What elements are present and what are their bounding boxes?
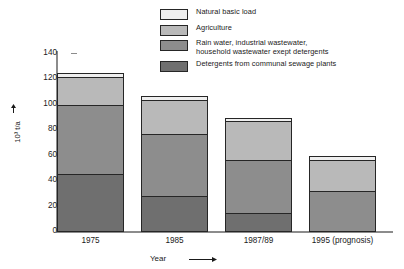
bar-segment-agriculture-1987-89[interactable] — [225, 121, 292, 159]
bar-1987-89[interactable] — [225, 118, 292, 232]
y-tick-120: 120 — [20, 78, 57, 79]
bar-1985[interactable] — [141, 96, 208, 232]
x-tick-label-1987-89: 1987/89 — [225, 236, 292, 245]
y-tick-label-60: 60 — [33, 151, 57, 159]
y-tick-60: 60 — [20, 155, 57, 156]
y-tick-label-40: 40 — [33, 176, 57, 184]
y-tick-label-80: 80 — [33, 125, 57, 133]
x-tick-label-1995: 1995 (prognosis) — [300, 236, 385, 245]
bar-1995[interactable] — [309, 156, 376, 232]
bar-segment-rain-water-1975[interactable] — [57, 105, 124, 174]
bar-segment-detergents-1975[interactable] — [57, 174, 124, 233]
y-tick-label-140: 140 — [33, 49, 57, 57]
y-tick-0: 0 — [20, 231, 57, 232]
bar-segment-rain-water-1987-89[interactable] — [225, 160, 292, 213]
bar-segment-detergents-1985[interactable] — [141, 196, 208, 232]
y-tick-40: 40 — [20, 180, 57, 181]
x-tick-label-1985: 1985 — [141, 236, 208, 245]
bar-segment-rain-water-1995[interactable] — [309, 191, 376, 232]
bar-1975[interactable] — [57, 73, 124, 232]
y-tick-100: 100 — [20, 104, 57, 105]
x-axis-arrow-icon — [189, 256, 219, 263]
bar-segment-agriculture-1995[interactable] — [309, 160, 376, 192]
bar-segment-agriculture-1975[interactable] — [57, 77, 124, 105]
bar-segment-rain-water-1985[interactable] — [141, 134, 208, 196]
bar-segment-agriculture-1985[interactable] — [141, 100, 208, 134]
plot-area: 140 120 100 80 60 40 20 0 — [0, 0, 404, 269]
y-tick-label-20: 20 — [33, 202, 57, 210]
y-tick-label-120: 120 — [33, 74, 57, 82]
y-axis-title: 10³ t/a — [14, 102, 22, 162]
y-tick-80: 80 — [20, 129, 57, 130]
y-tick-140: 140 — [20, 53, 57, 54]
y-tick-label-100: 100 — [33, 100, 57, 108]
x-tick-label-1975: 1975 — [57, 236, 124, 245]
y-tick-20: 20 — [20, 206, 57, 207]
stacked-bar-chart: Natural basic load Agriculture Rain wate… — [0, 0, 404, 269]
bar-segment-detergents-1987-89[interactable] — [225, 213, 292, 232]
y-tick-label-0: 0 — [33, 227, 57, 235]
